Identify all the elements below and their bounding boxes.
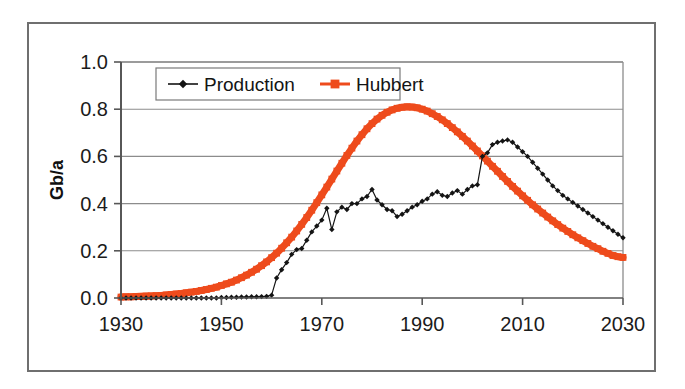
y-axis-tick-label: 0.2 <box>80 240 108 262</box>
y-axis-tick-label: 1.0 <box>80 51 108 73</box>
x-axis-tick-label: 1930 <box>99 313 144 335</box>
y-axis-tick-label: 0.0 <box>80 287 108 309</box>
legend-label: Production <box>204 74 295 95</box>
x-axis-tick-label: 1970 <box>300 313 345 335</box>
y-axis-tick-label: 0.6 <box>80 145 108 167</box>
x-axis-tick-label: 2030 <box>601 313 646 335</box>
legend-label: Hubbert <box>356 74 424 95</box>
line-chart: 0.00.20.40.60.81.01930195019701990201020… <box>29 24 654 370</box>
y-axis-tick-label: 0.4 <box>80 193 108 215</box>
x-axis-tick-label: 1990 <box>400 313 445 335</box>
y-axis-tick-label: 0.8 <box>80 98 108 120</box>
y-axis-title: Gb/a <box>47 159 67 200</box>
figure-root: 0.00.20.40.60.81.01930195019701990201020… <box>0 0 685 389</box>
x-axis-tick-label: 2010 <box>500 313 545 335</box>
x-axis-tick-label: 1950 <box>199 313 244 335</box>
figure-outer-frame: 0.00.20.40.60.81.01930195019701990201020… <box>27 22 656 372</box>
